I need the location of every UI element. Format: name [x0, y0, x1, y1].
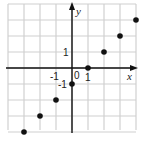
data-point: [37, 113, 43, 119]
data-point: [117, 33, 123, 39]
data-point: [53, 97, 59, 103]
data-point: [101, 49, 107, 55]
y-tick-label-1: 1: [63, 47, 69, 58]
y-axis-label: y: [75, 5, 81, 17]
x-tick-label-1: 1: [85, 72, 91, 83]
coordinate-plane: y x 0 -1 1 1 -1: [0, 0, 144, 141]
data-point: [69, 81, 75, 87]
data-point: [133, 17, 139, 23]
origin-label: 0: [74, 70, 80, 81]
data-point: [21, 129, 27, 135]
y-tick-label-neg1: -1: [58, 79, 67, 90]
data-points: [21, 17, 139, 135]
y-axis-arrow-icon: [69, 2, 75, 10]
x-axis-label: x: [126, 70, 132, 82]
axes: [6, 2, 138, 133]
data-point: [85, 65, 91, 71]
